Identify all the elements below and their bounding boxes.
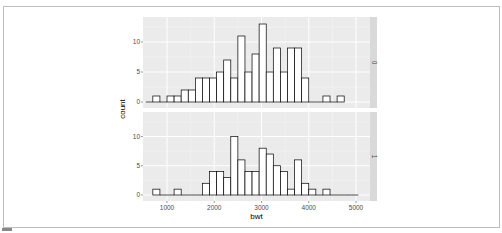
histogram-bar [202, 78, 209, 102]
histogram-bar [181, 90, 188, 102]
histogram-bar [273, 166, 280, 195]
histogram-bar [217, 72, 224, 102]
histogram-bar [153, 189, 160, 195]
y-tick-label: 10 [133, 133, 141, 140]
histogram-bar [153, 96, 160, 102]
histogram-bar [302, 78, 309, 102]
histogram-bar [280, 172, 287, 195]
facet-strip-label: 1 [371, 155, 378, 159]
histogram-bar [323, 96, 330, 102]
histogram-bar [302, 183, 309, 195]
histogram-bar [224, 177, 231, 195]
y-tick-label: 0 [136, 98, 140, 105]
x-axis-label: bwt [250, 212, 263, 221]
faceted-histogram: 051000510110002000300040005000bwtcount [0, 0, 502, 233]
y-tick-label: 10 [133, 38, 141, 45]
histogram-bar [174, 189, 181, 195]
histogram-bar [224, 60, 231, 102]
y-tick-label: 5 [136, 162, 140, 169]
histogram-bar [295, 160, 302, 195]
histogram-bar [273, 48, 280, 102]
histogram-bar [210, 78, 217, 102]
x-tick-label: 1000 [160, 204, 175, 211]
histogram-bar [238, 160, 245, 195]
histogram-bar [323, 189, 330, 195]
histogram-bar [309, 189, 316, 195]
histogram-bar [259, 24, 266, 102]
histogram-bar [280, 72, 287, 102]
histogram-bar [266, 154, 273, 195]
histogram-bar [295, 48, 302, 102]
histogram-bar [231, 136, 238, 195]
facet-strip-label: 0 [371, 61, 378, 65]
histogram-bar [245, 72, 252, 102]
histogram-bar [217, 172, 224, 195]
histogram-bar [167, 96, 174, 102]
histogram-bar [259, 148, 266, 195]
histogram-bar [231, 78, 238, 102]
histogram-bar [174, 96, 181, 102]
y-tick-label: 0 [136, 191, 140, 198]
x-tick-label: 2000 [207, 204, 222, 211]
histogram-bar [202, 183, 209, 195]
y-tick-label: 5 [136, 68, 140, 75]
histogram-bar [287, 189, 294, 195]
x-tick-label: 3000 [254, 204, 269, 211]
histogram-bar [195, 78, 202, 102]
y-axis-label: count [118, 98, 127, 118]
histogram-bar [266, 72, 273, 102]
histogram-bar [238, 36, 245, 102]
histogram-bar [252, 172, 259, 195]
histogram-bar [337, 96, 344, 102]
histogram-bar [252, 54, 259, 102]
histogram-bar [210, 172, 217, 195]
histogram-bar [188, 90, 195, 102]
x-tick-label: 4000 [302, 204, 317, 211]
histogram-bar [245, 172, 252, 195]
x-tick-label: 5000 [349, 204, 364, 211]
histogram-bar [287, 48, 294, 102]
